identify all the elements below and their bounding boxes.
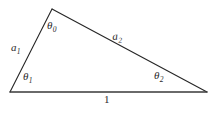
angle-label-theta1: θ1 <box>23 71 32 82</box>
angle-label-theta0-base: θ <box>47 19 52 31</box>
triangle-figure: θ0 a1 a2 θ1 θ2 1 <box>0 0 220 113</box>
angle-label-theta1-subscript: 1 <box>29 76 33 85</box>
triangle-graphic <box>0 0 220 113</box>
side-label-a2-subscript: 2 <box>118 35 122 44</box>
angle-label-theta0: θ0 <box>47 20 56 31</box>
angle-label-theta2-base: θ <box>154 69 159 81</box>
side-label-base-length: 1 <box>104 94 110 105</box>
side-label-a2: a2 <box>112 31 122 42</box>
side-label-a2-base: a <box>112 30 118 42</box>
angle-label-theta1-base: θ <box>23 70 28 82</box>
side-label-a1-subscript: 1 <box>17 47 21 56</box>
triangle-edge-upper-right-side <box>52 9 207 92</box>
angle-label-theta0-subscript: 0 <box>53 25 57 34</box>
side-label-a1-base: a <box>11 41 17 53</box>
angle-label-theta2: θ2 <box>154 70 163 81</box>
side-label-a1: a1 <box>11 42 20 53</box>
angle-label-theta2-subscript: 2 <box>160 75 164 84</box>
